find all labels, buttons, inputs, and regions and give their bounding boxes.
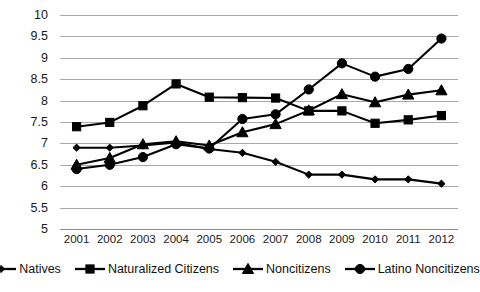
legend-item-noncitizens[interactable]: Noncitizens [233,262,331,276]
data-point-triangle [436,85,447,95]
data-point-square [338,107,346,115]
legend-item-naturalized-citizens[interactable]: Naturalized Citizens [75,262,219,276]
data-point-diamond [405,176,412,183]
x-tick-label: 2009 [329,233,355,245]
x-tick-label: 2012 [429,233,455,245]
data-point-triangle [336,89,347,99]
data-point-diamond [338,171,345,178]
data-point-circle [404,64,413,73]
y-tick-label: 8.5 [0,72,48,86]
series-naturalized-citizens [72,80,445,131]
data-point-circle [205,144,214,153]
diamond-marker-icon [0,262,16,276]
data-point-square [205,93,213,101]
y-tick-label: 10 [0,8,48,22]
data-point-diamond [305,171,312,178]
data-point-square [404,116,412,124]
y-tick-label: 6 [0,179,48,193]
x-axis-line [60,229,458,230]
square-marker-icon [75,262,105,276]
data-point-circle [370,72,379,81]
data-point-circle [105,160,114,169]
circle-marker-icon [345,262,375,276]
plot-area [60,15,458,229]
data-point-square [106,118,114,126]
x-tick-label: 2010 [362,233,388,245]
triangle-marker-icon [233,262,263,276]
x-tick-label: 2008 [296,233,322,245]
legend-label: Latino Noncitizens [378,262,480,276]
chart-legend: NativesNaturalized CitizensNoncitizensLa… [0,262,466,276]
data-point-circle [337,59,346,68]
x-tick-label: 2002 [97,233,123,245]
data-point-diamond [371,176,378,183]
y-tick-label: 8 [0,94,48,108]
x-tick-label: 2003 [130,233,156,245]
x-tick-label: 2005 [196,233,222,245]
legend-label: Natives [19,262,61,276]
data-point-diamond [272,158,279,165]
x-tick-label: 2006 [230,233,256,245]
y-tick-label: 5 [0,222,48,236]
x-tick-label: 2007 [263,233,289,245]
data-point-diamond [73,144,80,151]
x-tick-label: 2004 [163,233,189,245]
data-point-square [437,111,445,119]
data-point-square [172,80,180,88]
y-tick-label: 6.5 [0,158,48,172]
y-tick-label: 7.5 [0,115,48,129]
y-tick-label: 9 [0,51,48,65]
y-tick-label: 7 [0,136,48,150]
data-point-square [139,102,147,110]
data-point-circle [437,34,446,43]
y-tick-label: 9.5 [0,29,48,43]
series-layer [60,15,458,229]
series-latino-noncitizens [72,34,446,174]
y-tick-label: 5.5 [0,201,48,215]
x-tick-label: 2011 [396,233,421,245]
data-point-square [371,119,379,127]
data-point-circle [271,110,280,119]
series-line [77,84,442,127]
legend-label: Noncitizens [266,262,331,276]
data-point-circle [138,152,147,161]
data-point-diamond [106,144,113,151]
data-point-square [238,94,246,102]
data-point-square [271,94,279,102]
data-point-circle [304,85,313,94]
data-point-circle [171,140,180,149]
series-natives [73,139,445,187]
series-line [77,90,442,164]
legend-item-latino-noncitizens[interactable]: Latino Noncitizens [345,262,480,276]
data-point-circle [72,164,81,173]
legend-item-natives[interactable]: Natives [0,262,61,276]
data-point-circle [238,114,247,123]
x-tick-label: 2001 [64,233,90,245]
legend-label: Naturalized Citizens [108,262,219,276]
data-point-square [72,123,80,131]
data-point-diamond [438,180,445,187]
data-point-diamond [239,149,246,156]
